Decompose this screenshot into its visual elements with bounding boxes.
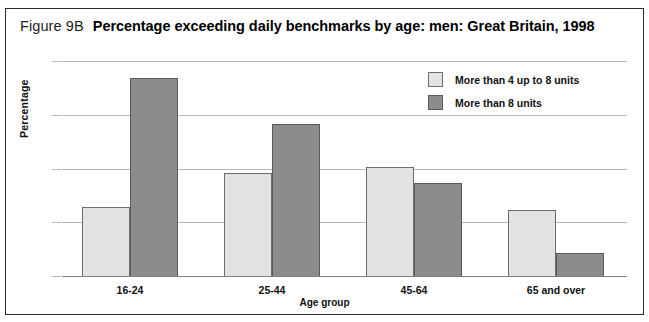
figure-title-row: Figure 9B Percentage exceeding daily ben…	[20, 18, 595, 34]
legend-swatch-1	[428, 72, 443, 87]
page-title: Percentage exceeding daily benchmarks by…	[93, 18, 595, 34]
x-tick-label-16-24: 16-24	[117, 284, 144, 296]
x-tick-label-45-64: 45-64	[401, 284, 428, 296]
legend-item-1: More than 4 up to 8 units	[428, 68, 579, 91]
y-axis-title: Percentage	[18, 79, 30, 138]
y-tick-mark-30	[52, 115, 61, 116]
legend-item-2: More than 8 units	[428, 91, 579, 114]
legend-label-1: More than 4 up to 8 units	[455, 74, 579, 86]
legend-label-2: More than 8 units	[455, 97, 542, 109]
bar-25-44-series-2	[272, 124, 320, 277]
gridline-40	[62, 61, 627, 62]
y-tick-mark-40	[52, 61, 61, 62]
legend-swatch-2	[428, 95, 443, 110]
chart-legend: More than 4 up to 8 unitsMore than 8 uni…	[428, 68, 579, 114]
bar-16-24-series-2	[130, 78, 178, 277]
bar-45-64-series-1	[366, 167, 414, 277]
bar-65-and-over-series-2	[556, 253, 604, 277]
x-tick-label-25-44: 25-44	[259, 284, 286, 296]
x-axis-line	[62, 276, 627, 277]
figure-9b-chart: Figure 9B Percentage exceeding daily ben…	[0, 0, 649, 322]
figure-number-label: Figure 9B	[20, 18, 84, 34]
y-tick-mark-10	[52, 222, 61, 223]
y-tick-mark-0	[52, 276, 61, 277]
bar-16-24-series-1	[82, 207, 130, 277]
x-tick-label-65-and-over: 65 and over	[527, 284, 585, 296]
y-tick-mark-20	[52, 169, 61, 170]
bar-65-and-over-series-1	[508, 210, 556, 277]
bar-25-44-series-1	[224, 173, 272, 277]
bar-45-64-series-2	[414, 183, 462, 277]
x-axis-title: Age group	[0, 297, 649, 308]
